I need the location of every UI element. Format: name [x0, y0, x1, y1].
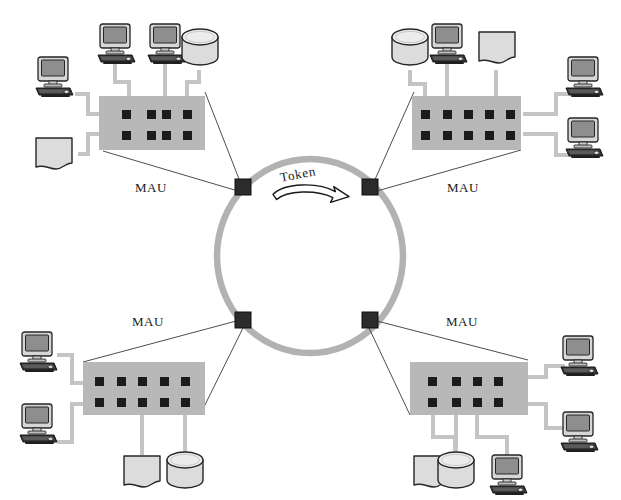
mau-port[interactable]	[473, 398, 482, 407]
mau-label-bottom-left: MAU	[132, 314, 164, 329]
mau-port[interactable]	[485, 110, 494, 119]
mau-port[interactable]	[162, 110, 171, 119]
mau-label-bottom-right: MAU	[446, 314, 478, 329]
cylinder-icon[interactable]	[392, 29, 428, 65]
mau-port[interactable]	[160, 398, 169, 407]
mau-box-top-right[interactable]	[412, 96, 521, 150]
mau-port[interactable]	[506, 131, 515, 140]
mau-port[interactable]	[421, 131, 430, 140]
device-cable	[477, 415, 507, 455]
ring-node-top-left[interactable]	[235, 179, 251, 195]
computer-icon[interactable]	[36, 57, 73, 97]
token-indicator: Token	[273, 163, 350, 204]
document-icon[interactable]	[36, 138, 72, 169]
mau-port[interactable]	[181, 398, 190, 407]
mau-port[interactable]	[95, 398, 104, 407]
mau-box-bottom-left[interactable]	[83, 362, 205, 415]
computer-icon[interactable]	[566, 118, 603, 158]
device-cable	[410, 70, 425, 96]
mau-port[interactable]	[428, 377, 437, 386]
cylinder-icon[interactable]	[182, 29, 218, 65]
token-ring-diagram: Token MAU	[0, 0, 621, 500]
mau-port[interactable]	[443, 110, 452, 119]
ring-node-top-right[interactable]	[362, 179, 378, 195]
mau-port[interactable]	[162, 131, 171, 140]
mau-port[interactable]	[443, 131, 452, 140]
ring-node-bottom-left[interactable]	[235, 312, 251, 328]
mau-port[interactable]	[160, 377, 169, 386]
trunk-line	[373, 92, 414, 184]
computer-icon[interactable]	[148, 24, 185, 64]
mau-port[interactable]	[122, 110, 131, 119]
document-icon[interactable]	[479, 32, 515, 63]
mau-port[interactable]	[181, 377, 190, 386]
device-cable	[523, 94, 570, 114]
mau-port[interactable]	[183, 110, 192, 119]
computer-icon[interactable]	[566, 57, 603, 97]
diagram-canvas: Token MAU	[0, 0, 621, 500]
token-direction-arrow-icon	[273, 182, 350, 204]
mau-box-bottom-right[interactable]	[410, 362, 528, 415]
cylinder-icon[interactable]	[438, 452, 474, 488]
mau-port[interactable]	[494, 398, 503, 407]
mau-port[interactable]	[122, 131, 131, 140]
mau-port[interactable]	[138, 377, 147, 386]
mau-port[interactable]	[117, 398, 126, 407]
mau-cluster-top-right: MAU	[392, 24, 603, 195]
computer-icon[interactable]	[561, 336, 598, 376]
mau-port[interactable]	[464, 131, 473, 140]
mau-port[interactable]	[464, 110, 473, 119]
mau-port[interactable]	[183, 131, 192, 140]
token-label: Token	[279, 163, 318, 185]
mau-cluster-bottom-left: MAU	[20, 314, 205, 488]
trunk-line	[205, 92, 241, 184]
device-cable	[433, 415, 455, 455]
computer-icon[interactable]	[490, 455, 527, 495]
trunk-line	[103, 151, 238, 191]
computer-icon[interactable]	[430, 24, 467, 64]
mau-port[interactable]	[138, 398, 147, 407]
mau-port[interactable]	[494, 377, 503, 386]
mau-port[interactable]	[95, 377, 104, 386]
computer-icon[interactable]	[20, 332, 57, 372]
ring-nodes	[235, 179, 378, 328]
mau-port[interactable]	[473, 377, 482, 386]
mau-port[interactable]	[452, 398, 461, 407]
computer-icon[interactable]	[98, 24, 135, 64]
device-cable	[75, 94, 101, 114]
mau-label-top-right: MAU	[447, 180, 479, 195]
device-cable	[187, 70, 199, 96]
mau-port[interactable]	[147, 131, 156, 140]
mau-cluster-top-left: MAU	[36, 24, 218, 195]
document-icon[interactable]	[124, 456, 160, 487]
mau-label-top-left: MAU	[135, 180, 167, 195]
mau-port[interactable]	[147, 110, 156, 119]
ring-node-bottom-right[interactable]	[362, 312, 378, 328]
device-cable	[115, 63, 129, 96]
cylinder-icon[interactable]	[167, 452, 203, 488]
trunk-line	[369, 328, 410, 415]
device-cable	[57, 355, 85, 383]
trunk-line	[200, 328, 243, 415]
mau-port[interactable]	[117, 377, 126, 386]
mau-port[interactable]	[428, 398, 437, 407]
mau-port[interactable]	[485, 131, 494, 140]
device-cable	[78, 134, 101, 154]
device-cable	[523, 134, 570, 155]
device-cable	[57, 404, 85, 442]
mau-cluster-bottom-right: MAU	[410, 314, 598, 495]
mau-port[interactable]	[452, 377, 461, 386]
mau-port[interactable]	[506, 110, 515, 119]
computer-icon[interactable]	[561, 412, 598, 452]
mau-box-top-left[interactable]	[99, 96, 205, 150]
mau-port[interactable]	[421, 110, 430, 119]
computer-icon[interactable]	[20, 404, 57, 444]
